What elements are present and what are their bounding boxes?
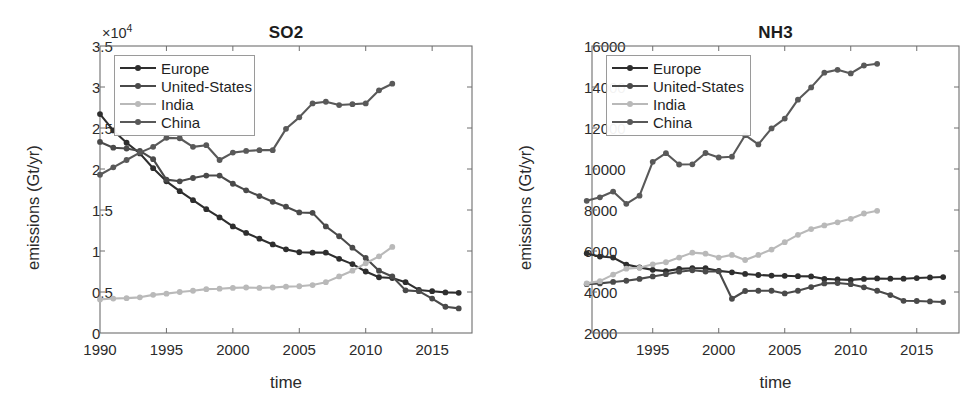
data-point-marker	[110, 145, 116, 151]
data-point-marker	[808, 85, 814, 91]
data-point-marker	[610, 279, 616, 285]
data-point-marker	[795, 97, 801, 103]
legend-item[interactable]: United-States	[612, 77, 743, 95]
data-point-marker	[755, 252, 761, 258]
data-point-marker	[835, 219, 841, 225]
legend-item-label: India	[161, 96, 194, 113]
data-point-marker	[703, 269, 709, 275]
data-point-marker	[190, 197, 196, 203]
data-point-marker	[283, 126, 289, 132]
legend-item[interactable]: China	[612, 113, 743, 131]
legend-item-label: United-States	[161, 78, 252, 95]
legend-item[interactable]: Europe	[612, 59, 743, 77]
legend-swatch-icon	[612, 61, 648, 75]
data-point-marker	[296, 114, 302, 120]
data-point-marker	[808, 274, 814, 280]
data-point-marker	[610, 255, 616, 261]
data-point-marker	[456, 290, 462, 296]
data-point-marker	[217, 214, 223, 220]
data-point-marker	[729, 252, 735, 258]
data-point-marker	[782, 291, 788, 297]
data-point-marker	[729, 154, 735, 160]
data-point-marker	[336, 274, 342, 280]
data-point-marker	[190, 288, 196, 294]
data-point-marker	[769, 247, 775, 253]
data-point-marker	[861, 63, 867, 69]
data-point-marker	[637, 193, 643, 199]
data-point-marker	[821, 222, 827, 228]
data-point-marker	[376, 253, 382, 259]
data-point-marker	[769, 273, 775, 279]
data-point-marker	[217, 157, 223, 163]
data-point-marker	[755, 272, 761, 278]
data-point-marker	[376, 87, 382, 93]
legend-item[interactable]: China	[120, 113, 247, 131]
data-point-marker	[270, 242, 276, 248]
data-point-marker	[874, 208, 880, 214]
data-point-marker	[676, 162, 682, 168]
data-point-marker	[597, 278, 603, 284]
data-point-marker	[901, 276, 907, 282]
data-point-marker	[403, 279, 409, 285]
legend-item[interactable]: India	[120, 95, 247, 113]
data-point-marker	[164, 291, 170, 297]
data-point-marker	[110, 296, 116, 302]
data-point-marker	[821, 280, 827, 286]
data-point-marker	[610, 189, 616, 195]
data-point-marker	[283, 284, 289, 290]
data-point-marker	[137, 294, 143, 300]
data-point-marker	[703, 251, 709, 257]
data-point-marker	[283, 246, 289, 252]
data-point-marker	[584, 198, 590, 204]
legend-swatch-icon	[120, 115, 156, 129]
data-point-marker	[243, 148, 249, 154]
data-point-marker	[323, 250, 329, 256]
data-point-marker	[887, 276, 893, 282]
data-point-marker	[597, 254, 603, 260]
legend-item[interactable]: United-States	[120, 77, 247, 95]
data-point-marker	[243, 187, 249, 193]
data-point-marker	[363, 101, 369, 107]
data-point-marker	[97, 139, 103, 145]
data-point-marker	[782, 273, 788, 279]
data-point-marker	[403, 287, 409, 293]
data-point-marker	[257, 147, 263, 153]
data-point-marker	[650, 159, 656, 165]
data-point-marker	[874, 61, 880, 67]
data-point-marker	[927, 275, 933, 281]
legend-item[interactable]: Europe	[120, 59, 247, 77]
data-point-marker	[97, 172, 103, 178]
data-point-marker	[257, 285, 263, 291]
data-point-marker	[230, 285, 236, 291]
legend-swatch-icon	[120, 97, 156, 111]
legend-item[interactable]: India	[612, 95, 743, 113]
series-united-states	[97, 139, 462, 311]
data-point-marker	[874, 288, 880, 294]
legend-swatch-icon	[120, 79, 156, 93]
data-point-marker	[914, 298, 920, 304]
data-point-marker	[835, 280, 841, 286]
data-point-marker	[150, 156, 156, 162]
data-point-marker	[217, 173, 223, 179]
data-point-marker	[363, 269, 369, 275]
legend-item-label: China	[653, 114, 692, 131]
data-point-marker	[716, 268, 722, 274]
data-point-marker	[336, 256, 342, 262]
data-point-marker	[795, 232, 801, 238]
data-point-marker	[270, 285, 276, 291]
data-point-marker	[927, 299, 933, 305]
data-point-marker	[808, 226, 814, 232]
data-point-marker	[848, 216, 854, 222]
data-point-marker	[243, 230, 249, 236]
data-point-marker	[443, 290, 449, 296]
data-point-marker	[350, 101, 356, 107]
data-point-marker	[729, 296, 735, 302]
data-point-marker	[336, 102, 342, 108]
data-point-marker	[650, 261, 656, 267]
legend-swatch-icon	[612, 79, 648, 93]
data-point-marker	[742, 288, 748, 294]
chart-panel-so2: SO2×104emissions (Gt/yr)time00.511.522.5…	[0, 0, 484, 411]
data-point-marker	[795, 273, 801, 279]
data-point-marker	[110, 164, 116, 170]
data-point-marker	[203, 206, 209, 212]
